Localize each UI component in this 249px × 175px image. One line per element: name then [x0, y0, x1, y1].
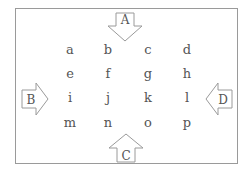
arrow-label-b: B — [27, 93, 36, 107]
grid-cell-a: a — [60, 42, 80, 58]
grid-cell-h: h — [177, 66, 197, 82]
arrow-up-icon: C — [108, 133, 144, 163]
grid-cell-p: p — [177, 115, 197, 131]
grid-cell-i: i — [60, 90, 80, 106]
grid-cell-o: o — [138, 115, 158, 131]
grid-cell-m: m — [60, 115, 80, 131]
grid-cell-j: j — [98, 90, 118, 106]
grid-cell-l: l — [177, 90, 197, 106]
grid-cell-g: g — [138, 66, 158, 82]
arrow-label-a: A — [120, 13, 130, 27]
grid-cell-n: n — [98, 115, 118, 131]
arrow-left-icon: D — [205, 82, 233, 116]
grid-cell-f: f — [98, 66, 118, 82]
grid-cell-b: b — [98, 42, 118, 58]
arrow-right-icon: B — [21, 82, 49, 116]
arrow-label-c: C — [121, 149, 130, 163]
grid-cell-k: k — [138, 90, 158, 106]
arrow-label-d: D — [218, 93, 228, 107]
grid-cell-c: c — [138, 42, 158, 58]
grid-cell-e: e — [60, 66, 80, 82]
grid-cell-d: d — [177, 42, 197, 58]
arrow-down-icon: A — [107, 12, 143, 42]
